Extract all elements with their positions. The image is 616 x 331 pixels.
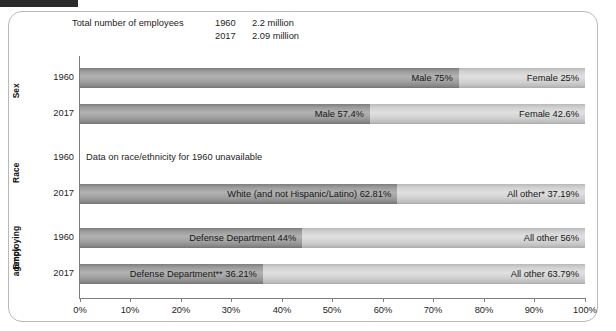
x-tick-20 — [181, 298, 182, 302]
bar-sex-1960[interactable]: Male 75% Female 25% — [80, 68, 585, 88]
x-tick-label-90: 90% — [525, 305, 544, 315]
x-tick-label-10: 10% — [121, 305, 140, 315]
row-year-race-1960: 1960 — [34, 152, 74, 162]
x-tick-label-80: 80% — [475, 305, 494, 315]
x-tick-30 — [231, 298, 232, 302]
segment-agency-2017-defense[interactable]: Defense Department** 36.21% — [80, 264, 263, 284]
x-tick-label-20: 20% — [172, 305, 191, 315]
note-race-1960-unavailable: Data on race/ethnicity for 1960 unavaila… — [86, 152, 262, 162]
x-tick-10 — [130, 298, 131, 302]
bar-race-2017[interactable]: White (and not Hispanic/Latino) 62.81% A… — [80, 184, 585, 204]
y-axis-line — [79, 56, 80, 299]
row-year-sex-2017: 2017 — [34, 108, 74, 118]
group-label-employing-agency: Employing agency — [0, 248, 34, 266]
group-label-sex: Sex — [0, 86, 34, 96]
x-tick-50 — [332, 298, 333, 302]
x-tick-100 — [585, 298, 586, 302]
segment-race-2017-all-other[interactable]: All other* 37.19% — [397, 184, 585, 204]
segment-sex-1960-female[interactable]: Female 25% — [459, 68, 585, 88]
segment-race-2017-white[interactable]: White (and not Hispanic/Latino) 62.81% — [80, 184, 397, 204]
x-tick-label-60: 60% — [374, 305, 393, 315]
x-tick-label-50: 50% — [323, 305, 342, 315]
x-tick-0 — [80, 298, 81, 302]
bar-sex-2017[interactable]: Male 57.4% Female 42.6% — [80, 104, 585, 124]
x-tick-label-40: 40% — [273, 305, 292, 315]
segment-sex-2017-male[interactable]: Male 57.4% — [80, 104, 370, 124]
x-tick-label-70: 70% — [424, 305, 443, 315]
group-label-race: Race — [0, 168, 34, 178]
chart-plot-area: Sex Race Employing agency 1960 2017 1960… — [0, 0, 616, 331]
segment-agency-2017-all-other[interactable]: All other 63.79% — [263, 264, 585, 284]
row-year-agency-1960: 1960 — [34, 232, 74, 242]
segment-agency-1960-defense[interactable]: Defense Department 44% — [80, 228, 302, 248]
x-tick-70 — [433, 298, 434, 302]
segment-agency-1960-all-other[interactable]: All other 56% — [302, 228, 585, 248]
x-tick-60 — [383, 298, 384, 302]
x-tick-80 — [484, 298, 485, 302]
bar-agency-2017[interactable]: Defense Department** 36.21% All other 63… — [80, 264, 585, 284]
x-tick-label-100: 100% — [573, 305, 597, 315]
bar-agency-1960[interactable]: Defense Department 44% All other 56% — [80, 228, 585, 248]
row-year-agency-2017: 2017 — [34, 268, 74, 278]
x-tick-90 — [534, 298, 535, 302]
row-year-sex-1960: 1960 — [34, 72, 74, 82]
segment-sex-1960-male[interactable]: Male 75% — [80, 68, 459, 88]
x-tick-label-0: 0% — [73, 305, 86, 315]
x-tick-40 — [282, 298, 283, 302]
x-tick-label-30: 30% — [222, 305, 241, 315]
row-year-race-2017: 2017 — [34, 188, 74, 198]
segment-sex-2017-female[interactable]: Female 42.6% — [370, 104, 585, 124]
